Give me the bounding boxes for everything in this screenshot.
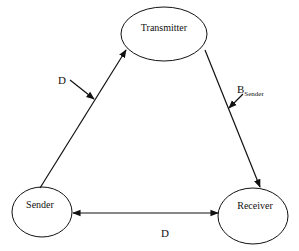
transmitter-label: Transmitter [141,22,188,33]
label-pointer-b-sender [229,94,243,108]
node-transmitter: Transmitter [121,7,207,61]
edge-sender-receiver: D [73,213,218,239]
edge-label-b-subscript: Sender [244,90,264,98]
sender-ellipse [12,187,72,237]
node-sender: Sender [12,187,72,237]
edge-sender-to-transmitter: D [40,50,126,188]
receiver-label: Receiver [237,200,273,211]
diagram-svg: Transmitter Sender Receiver D BSender [0,0,299,251]
arrow-sender-to-transmitter [40,50,126,188]
edge-label-d-bottom: D [161,227,169,239]
arrow-transmitter-to-receiver [205,50,260,187]
transmitter-ellipse [121,7,207,61]
node-receiver: Receiver [218,188,288,244]
label-pointer-d-left [70,80,94,99]
edge-transmitter-to-receiver: BSender [205,50,264,187]
edge-label-b-main: B [237,83,244,95]
sender-label: Sender [26,199,54,210]
receiver-ellipse [218,188,288,244]
diagram-canvas: Transmitter Sender Receiver D BSender [0,0,299,251]
edge-label-d-left: D [58,74,66,86]
